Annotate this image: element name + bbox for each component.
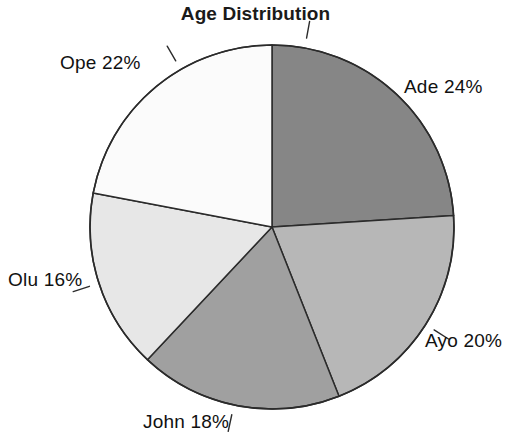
slice-label-john: John 18% bbox=[143, 411, 229, 433]
pie-slice-ade bbox=[272, 45, 454, 227]
leader-line-ope bbox=[167, 46, 176, 61]
pie-slices bbox=[90, 45, 454, 409]
leader-line-ade bbox=[307, 21, 310, 38]
pie-chart-figure: Age Distribution Ade 24% Ayo 20% John 18… bbox=[0, 0, 511, 446]
slice-label-ope: Ope 22% bbox=[60, 52, 141, 74]
slice-label-ade: Ade 24% bbox=[404, 76, 483, 98]
slice-label-olu: Olu 16% bbox=[8, 269, 82, 291]
slice-label-ayo: Ayo 20% bbox=[425, 330, 502, 352]
